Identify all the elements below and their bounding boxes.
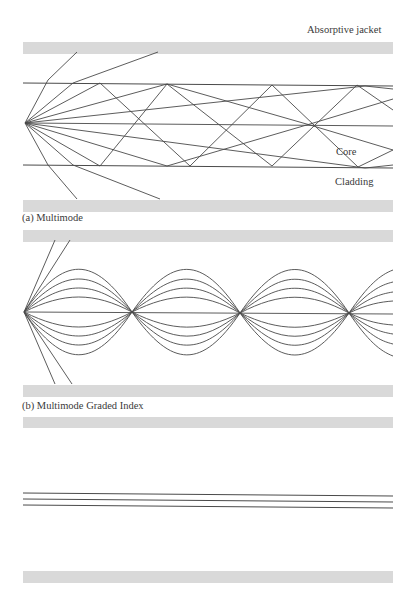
core-boundary-top <box>23 83 393 86</box>
jacket-top-c <box>23 417 393 428</box>
fiber-modes-diagram <box>0 0 414 592</box>
panel-b-graded-index <box>23 230 393 397</box>
label-core: Core <box>336 146 356 157</box>
jacket-bottom-b <box>23 385 393 397</box>
jacket-bottom-c <box>23 571 393 583</box>
panel-c-single-mode <box>23 417 393 583</box>
caption-b: (b) Multimode Graded Index <box>22 400 144 411</box>
jacket-top-b <box>23 230 393 242</box>
caption-a: (a) Multimode <box>22 212 83 223</box>
jacket-top-a <box>23 42 393 54</box>
rays-b <box>24 240 393 384</box>
label-absorptive-jacket: Absorptive jacket <box>307 24 381 35</box>
label-cladding: Cladding <box>335 176 374 187</box>
jacket-bottom-a <box>23 200 393 212</box>
